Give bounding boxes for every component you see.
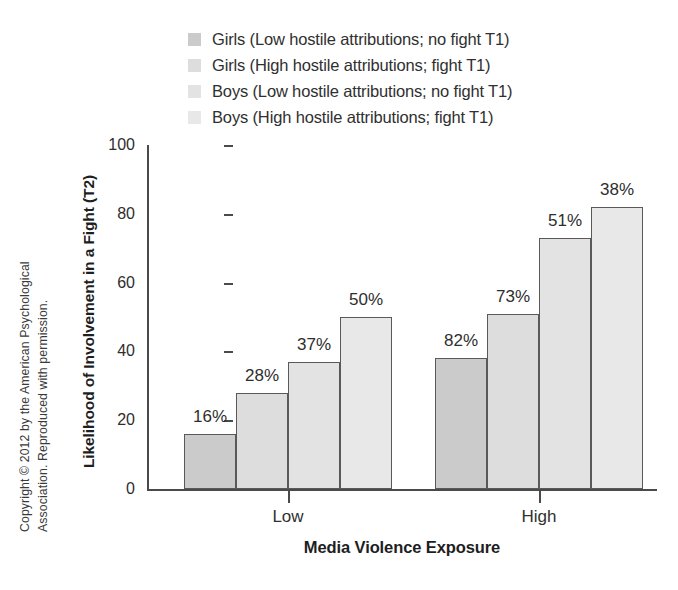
y-axis-tick-mark bbox=[224, 145, 233, 147]
bar[interactable] bbox=[539, 238, 591, 489]
y-axis-tick-mark bbox=[224, 351, 233, 353]
y-axis-tick: 40 bbox=[85, 351, 148, 353]
y-axis-tick-label: 0 bbox=[89, 481, 135, 497]
bar[interactable] bbox=[340, 317, 392, 489]
bar[interactable] bbox=[435, 358, 487, 489]
y-axis-tick: 60 bbox=[85, 283, 148, 285]
y-axis-tick-mark bbox=[224, 489, 233, 491]
bar[interactable] bbox=[288, 362, 340, 489]
bar[interactable] bbox=[184, 434, 236, 489]
x-axis-tick-mark bbox=[288, 491, 290, 503]
y-axis-tick-label: 100 bbox=[89, 137, 135, 153]
y-axis-tick-label: 60 bbox=[89, 275, 135, 291]
y-axis-tick-label: 20 bbox=[89, 412, 135, 428]
x-axis-tick-label: Low bbox=[228, 507, 348, 527]
y-axis-tick: 20 bbox=[85, 420, 148, 422]
bar-value-label: 38% bbox=[577, 180, 657, 200]
bar[interactable] bbox=[487, 314, 539, 489]
y-axis-tick-label: 40 bbox=[89, 343, 135, 359]
y-axis-tick: 0 bbox=[85, 489, 148, 491]
x-axis-title-label: Media Violence Exposure bbox=[147, 538, 657, 557]
bar[interactable] bbox=[236, 393, 288, 489]
x-axis-tick-label: High bbox=[479, 507, 599, 527]
y-axis-tick: 100 bbox=[85, 145, 148, 147]
plot-area: 020406080100 LowHigh 16%28%37%50%82%73%5… bbox=[0, 0, 678, 590]
y-axis-tick-mark bbox=[224, 283, 233, 285]
bar-value-label: 50% bbox=[326, 290, 406, 310]
x-axis-tick-mark bbox=[539, 491, 541, 503]
bar[interactable] bbox=[591, 207, 643, 489]
y-axis-tick: 80 bbox=[85, 214, 148, 216]
y-axis-tick-label: 80 bbox=[89, 206, 135, 222]
y-axis-tick-mark bbox=[224, 214, 233, 216]
y-axis-line bbox=[147, 145, 149, 490]
